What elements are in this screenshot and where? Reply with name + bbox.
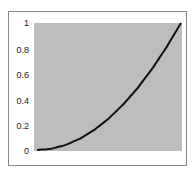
line-series	[0, 0, 193, 174]
